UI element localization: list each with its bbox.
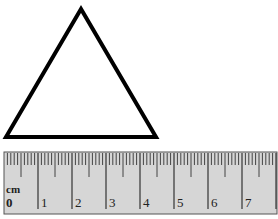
ruler-number-3: 3: [109, 196, 116, 209]
ruler-number-2: 2: [75, 196, 82, 209]
ruler-number-0: 0: [6, 196, 13, 209]
ruler-unit-label: cm: [6, 183, 20, 196]
ruler-number-6: 6: [211, 196, 218, 209]
triangle: [6, 9, 156, 137]
ruler-number-4: 4: [143, 196, 150, 209]
figure: [0, 0, 278, 219]
ruler-number-7: 7: [245, 196, 252, 209]
ruler-number-5: 5: [177, 196, 184, 209]
ruler-number-1: 1: [41, 196, 48, 209]
